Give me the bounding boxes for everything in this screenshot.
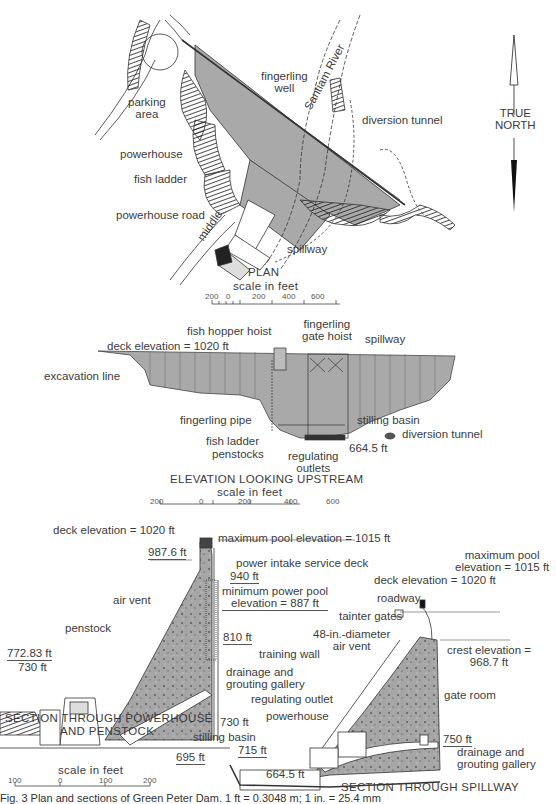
label-ph-penstock: penstock — [65, 622, 111, 634]
label-ph-810: 810 ft — [223, 631, 252, 645]
label-sp-730: 730 ft — [220, 716, 249, 728]
label-elevation-penstocks: penstocks — [212, 448, 264, 460]
label-excavation-line: excavation line — [44, 370, 120, 382]
elev-tick-2: 200 — [238, 496, 251, 508]
plan-tick-3: 400 — [282, 291, 295, 303]
label-sp-gate-room: gate room — [444, 689, 496, 701]
elevation-title: ELEVATION LOOKING UPSTREAM — [170, 473, 363, 485]
label-fingerling-line2: well — [261, 82, 308, 94]
label-sp-regulating-outlet: regulating outlet — [251, 693, 333, 705]
label-ph-drainage: drainage and grouting gallery — [226, 666, 305, 690]
label-sp-deck-elevation: deck elevation = 1020 ft — [374, 574, 496, 586]
ph-tick-0: 100 — [8, 775, 21, 787]
elev-tick-1: 0 — [199, 496, 203, 508]
label-ph-air-vent: air vent — [113, 594, 151, 606]
north-label-line2: NORTH — [495, 119, 536, 131]
label-ph-drainage-line1: drainage and — [226, 666, 305, 678]
label-sp-air-vent-line2: air vent — [313, 640, 390, 652]
elev-tick-0: 200 — [150, 496, 163, 508]
plan-tick-0: 200 — [205, 291, 218, 303]
label-min-pool-line2: elevation = 887 ft — [222, 597, 328, 611]
label-sp-roadway: roadway — [377, 592, 420, 604]
elev-tick-3: 400 — [284, 496, 297, 508]
label-stilling-basin: stilling basin — [357, 414, 420, 426]
label-plan-fish-ladder: fish ladder — [134, 173, 187, 185]
label-fingerling-gate-hoist: fingerling gate hoist — [302, 318, 352, 342]
powerhouse-section-scale-bar — [15, 782, 150, 786]
north-label-line1: TRUE — [495, 107, 536, 119]
label-sp-max-pool-line2: elevation = 1015 ft — [455, 561, 549, 573]
label-power-intake: power intake service deck — [236, 557, 368, 569]
label-ph-drainage-line2: grouting gallery — [226, 678, 305, 690]
label-sp-tainter-gates: tainter gates — [339, 610, 402, 622]
label-elevation-diversion-tunnel: diversion tunnel — [402, 428, 483, 440]
label-sp-695: 695 ft — [176, 751, 205, 765]
label-gate-hoist-line1: fingerling — [302, 318, 352, 330]
label-sp-750: 750 ft — [443, 733, 472, 747]
label-sp-training-wall: training wall — [259, 648, 320, 660]
label-sp-crest: crest elevation = 968.7 ft — [447, 644, 531, 668]
elevation-view — [98, 348, 455, 440]
elev-tick-4: 600 — [326, 496, 339, 508]
label-sp-664: 664.5 ft — [266, 768, 304, 780]
label-sp-crest-line1: crest elevation = — [447, 644, 531, 656]
label-sp-crest-line2: 968.7 ft — [447, 656, 531, 668]
label-regulating-outlets: regulating outlets — [288, 450, 339, 474]
plan-title: PLAN — [248, 266, 279, 278]
label-sp-drainage-line1: drainage and — [457, 746, 536, 758]
label-sp-drainage: drainage and grouting gallery — [457, 746, 536, 770]
label-sp-stilling-basin: stilling basin — [193, 731, 256, 743]
label-elevation-deck: deck elevation = 1020 ft — [107, 340, 229, 352]
ph-tick-2: 100 — [99, 775, 112, 787]
plan-tick-2: 200 — [252, 291, 265, 303]
label-fingerling-line1: fingerling — [261, 70, 308, 82]
powerhouse-section-title-2: AND PENSTOCK — [60, 725, 154, 737]
figure-caption: Fig. 3 Plan and sections of Green Peter … — [0, 792, 381, 804]
label-fish-hopper-hoist: fish hopper hoist — [187, 325, 271, 337]
label-sp-air-vent-line1: 48-in.-diameter — [313, 628, 390, 640]
label-parking-area: parking area — [128, 96, 166, 120]
ph-scale-label: scale in feet — [58, 764, 123, 776]
label-sp-max-pool-line1: maximum pool — [455, 549, 549, 561]
label-min-pool-line1: minimum power pool — [222, 585, 328, 597]
label-ph-772: 772.83 ft — [7, 647, 52, 661]
plan-tick-1: 0 — [226, 291, 230, 303]
label-plan-diversion-tunnel: diversion tunnel — [362, 114, 443, 126]
label-sp-drainage-line2: grouting gallery — [457, 758, 536, 770]
label-ph-987: 987.6 ft — [148, 546, 186, 560]
label-sp-max-pool: maximum pool elevation = 1015 ft — [455, 549, 549, 573]
label-sp-air-vent: 48-in.-diameter air vent — [313, 628, 390, 652]
north-arrow-label: TRUE NORTH — [495, 107, 536, 131]
powerhouse-section-title-1: SECTION THROUGH POWERHOUSE — [5, 712, 213, 724]
label-fingerling-pipe: fingerling pipe — [180, 414, 252, 426]
label-min-power-pool: minimum power pool elevation = 887 ft — [222, 585, 328, 611]
label-sp-powerhouse: powerhouse — [266, 710, 329, 722]
ph-tick-3: 200 — [143, 775, 156, 787]
label-plan-spillway: spillway — [287, 243, 327, 255]
plan-tick-4: 600 — [311, 291, 324, 303]
label-parking-line1: parking — [128, 96, 166, 108]
label-plan-powerhouse: powerhouse — [120, 148, 183, 160]
label-ph-deck-elevation: deck elevation = 1020 ft — [53, 524, 175, 536]
label-parking-line2: area — [128, 108, 166, 120]
label-ph-max-pool: maximum pool elevation = 1015 ft — [218, 532, 390, 544]
label-elevation-spillway: spillway — [365, 333, 405, 345]
label-elevation-fish-ladder: fish ladder — [206, 435, 259, 447]
elevation-scale-bar — [160, 500, 300, 504]
label-ph-940: 940 ft — [230, 570, 259, 584]
label-plan-powerhouse-road: powerhouse road — [116, 209, 205, 221]
label-gate-hoist-line2: gate hoist — [302, 330, 352, 342]
label-sp-715: 715 ft — [238, 744, 267, 758]
label-fingerling-well: fingerling well — [261, 70, 308, 94]
label-reg-outlets-line1: regulating — [288, 450, 339, 462]
label-elevation-664: 664.5 ft — [349, 442, 387, 454]
ph-tick-1: 0 — [58, 775, 62, 787]
label-ph-730: 730 ft — [18, 661, 47, 673]
